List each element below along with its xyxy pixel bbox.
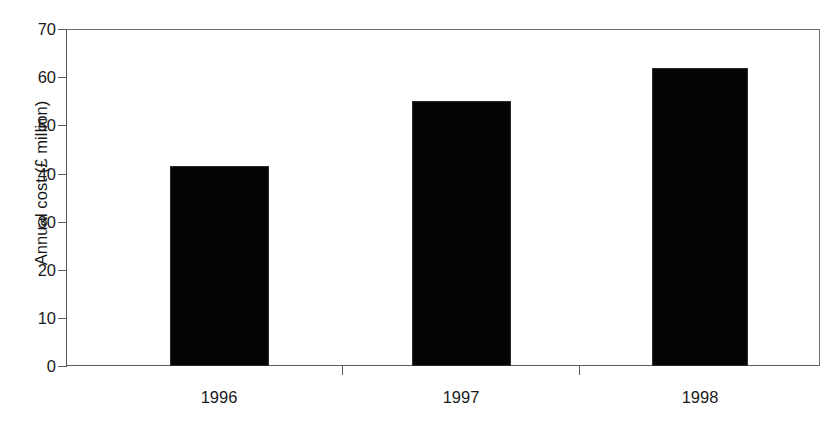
bar-chart-figure: Annual cost (£ million) 70 60 50 40 30 2… — [0, 0, 834, 426]
y-tick-label-40: 40 — [10, 165, 56, 184]
bar-1998 — [652, 68, 748, 366]
y-tick-label-20: 20 — [10, 261, 56, 280]
x-tick-label-1996: 1996 — [159, 388, 279, 407]
x-tick-mark-2 — [579, 366, 580, 375]
y-tick-mark-40 — [58, 174, 67, 175]
y-tick-label-60: 60 — [10, 68, 56, 87]
x-tick-mark-1 — [342, 366, 343, 375]
y-tick-mark-10 — [58, 318, 67, 319]
y-tick-mark-50 — [58, 125, 67, 126]
bar-1996 — [170, 166, 269, 366]
y-tick-mark-70 — [58, 29, 67, 30]
y-tick-mark-30 — [58, 222, 67, 223]
y-tick-label-0: 0 — [10, 357, 56, 376]
y-tick-mark-60 — [58, 77, 67, 78]
x-tick-label-1998: 1998 — [640, 388, 760, 407]
y-tick-label-50: 50 — [10, 116, 56, 135]
y-tick-label-70: 70 — [10, 20, 56, 39]
bar-1997 — [412, 101, 511, 366]
x-tick-label-1997: 1997 — [401, 388, 521, 407]
y-tick-label-10: 10 — [10, 309, 56, 328]
y-tick-mark-20 — [58, 270, 67, 271]
y-tick-mark-0 — [58, 366, 67, 367]
y-tick-label-30: 30 — [10, 213, 56, 232]
